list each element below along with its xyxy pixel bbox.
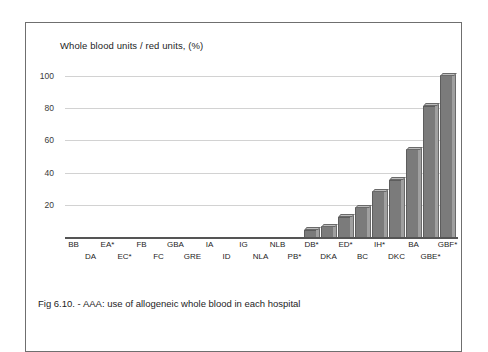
bar-front-face	[440, 75, 452, 237]
bar-front-face	[321, 226, 333, 237]
x-tick-label-DKA: DKA	[312, 252, 346, 261]
x-axis-line	[65, 237, 458, 239]
x-tick-label-FB: FB	[125, 240, 159, 249]
x-tick-label-IG: IG	[227, 240, 261, 249]
bar-top-face	[406, 147, 423, 150]
bar-front-face	[389, 180, 401, 237]
x-tick-label-DA: DA	[74, 252, 108, 261]
bar-DB*	[304, 231, 320, 237]
x-tick-label-BB: BB	[57, 240, 91, 249]
x-tick-label-DKC: DKC	[380, 252, 414, 261]
x-tick-label-GRE: GRE	[176, 252, 210, 261]
x-tick-label-BA: BA	[397, 240, 431, 249]
y-tick-label-60: 60	[14, 135, 54, 145]
bar-series	[65, 63, 456, 237]
bar-BA	[406, 150, 422, 237]
bar-front-face	[338, 217, 350, 237]
bar-front-face	[406, 149, 418, 237]
bar-front-face	[423, 106, 435, 238]
bar-top-face	[372, 189, 389, 192]
x-tick-label-GBA: GBA	[159, 240, 193, 249]
figure-caption: Fig 6.10. - AAA: use of allogeneic whole…	[38, 298, 300, 309]
bar-DKA	[321, 227, 337, 237]
x-tick-label-PB*: PB*	[278, 252, 312, 261]
bar-front-face	[372, 191, 384, 237]
x-tick-label-ED*: ED*	[329, 240, 363, 249]
bar-side-face	[452, 73, 456, 237]
bar-side-face	[418, 147, 422, 237]
chart-plot-area: Whole blood units / red units, (%) 20406…	[26, 23, 463, 273]
bar-side-face	[384, 189, 388, 237]
x-tick-label-IH*: IH*	[363, 240, 397, 249]
y-tick-label-40: 40	[14, 168, 54, 178]
bar-top-face	[440, 73, 457, 76]
bar-GBF*	[440, 76, 456, 237]
x-tick-label-FC: FC	[142, 252, 176, 261]
bar-DKC	[389, 181, 405, 237]
x-tick-label-DB*: DB*	[295, 240, 329, 249]
bar-IH*	[372, 192, 388, 237]
x-tick-label-NLA: NLA	[244, 252, 278, 261]
y-tick-label-100: 100	[14, 71, 54, 81]
x-tick-label-NLB: NLB	[261, 240, 295, 249]
x-tick-label-GBF*: GBF*	[431, 240, 465, 249]
bar-ED*	[338, 218, 354, 237]
x-axis-labels: BBDAEA*EC*FBFCGBAGREIAIDIGNLANLBPB*DB*DK…	[65, 240, 456, 272]
bar-side-face	[350, 215, 354, 237]
x-tick-label-EC*: EC*	[108, 252, 142, 261]
bar-top-face	[355, 205, 372, 208]
bar-front-face	[355, 207, 367, 237]
bar-BC	[355, 208, 371, 237]
x-tick-label-EA*: EA*	[91, 240, 125, 249]
bar-side-face	[435, 104, 439, 238]
x-tick-label-IA: IA	[193, 240, 227, 249]
bar-front-face	[304, 230, 316, 237]
y-tick-label-20: 20	[14, 200, 54, 210]
y-tick-label-80: 80	[14, 103, 54, 113]
x-tick-label-GBE*: GBE*	[414, 252, 448, 261]
bar-GBE*	[423, 107, 439, 238]
figure-frame: Whole blood units / red units, (%) 20406…	[25, 22, 462, 352]
x-tick-label-BC: BC	[346, 252, 380, 261]
bar-side-face	[401, 178, 405, 237]
bar-side-face	[367, 205, 371, 237]
chart-title: Whole blood units / red units, (%)	[60, 40, 203, 51]
x-tick-label-ID: ID	[210, 252, 244, 261]
